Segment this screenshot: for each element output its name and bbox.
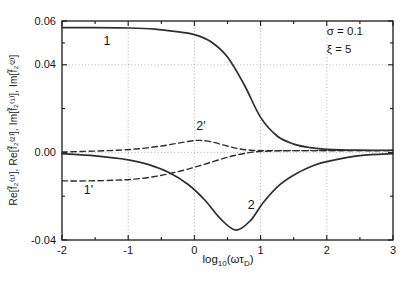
x-axis-label-close: ) bbox=[250, 253, 254, 265]
y-tick-label: 0.04 bbox=[35, 58, 56, 70]
x-tick-label: 0 bbox=[191, 244, 197, 256]
x-axis-label: log10(ωτD) bbox=[202, 253, 253, 268]
x-axis-label-omega-tau: (ωτ bbox=[227, 253, 244, 265]
x-tick-label: -1 bbox=[123, 244, 133, 256]
plot-area: -2-101230.060.040.00-0.0412'1'2σ = 0.1ξ … bbox=[0, 0, 408, 290]
parameter-annotation: σ = 0.1 bbox=[327, 25, 363, 37]
chart-figure: -2-101230.060.040.00-0.0412'1'2σ = 0.1ξ … bbox=[0, 0, 408, 290]
curve-label-2: 2 bbox=[248, 198, 255, 212]
curve-label-1: 1 bbox=[104, 34, 111, 48]
parameter-annotation: ξ = 5 bbox=[327, 43, 352, 55]
y-axis-label: Re[f̃₂⁽¹⁾], Re[f̃₂⁽²⁾], Im[f̃₂⁽¹⁾], Im[f… bbox=[8, 54, 19, 205]
x-tick-label: 2 bbox=[324, 244, 330, 256]
curve-label-2-prime: 2' bbox=[196, 119, 205, 133]
x-tick-label: 3 bbox=[390, 244, 396, 256]
curve-2-prime bbox=[62, 140, 393, 152]
x-axis-label-sub10: 10 bbox=[218, 259, 227, 268]
curve-label-1-prime: 1' bbox=[84, 183, 93, 197]
curve-2 bbox=[62, 154, 393, 230]
y-tick-label: 0.00 bbox=[35, 146, 56, 158]
x-tick-label: 1 bbox=[258, 244, 264, 256]
y-tick-label: -0.04 bbox=[31, 234, 56, 246]
x-axis-label-base: log bbox=[202, 253, 217, 265]
x-tick-label: -2 bbox=[57, 244, 67, 256]
y-tick-label: 0.06 bbox=[35, 15, 56, 27]
curve-1-prime bbox=[62, 151, 393, 181]
